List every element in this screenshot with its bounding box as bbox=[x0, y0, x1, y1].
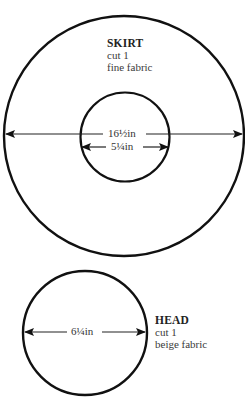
head-label: HEAD cut 1 beige fabric bbox=[155, 314, 207, 350]
skirt-outer-diameter-label: 16½in bbox=[106, 128, 138, 139]
skirt-cut: cut 1 bbox=[107, 49, 153, 61]
skirt-title: SKIRT bbox=[107, 37, 153, 49]
skirt-inner-diameter-label: 5¼in bbox=[109, 141, 135, 152]
head-diameter-label: 6¼in bbox=[69, 326, 95, 337]
skirt-label: SKIRT cut 1 fine fabric bbox=[107, 37, 153, 73]
head-fabric: beige fabric bbox=[155, 338, 207, 350]
skirt-fabric: fine fabric bbox=[107, 61, 153, 73]
head-title: HEAD bbox=[155, 314, 207, 326]
head-cut: cut 1 bbox=[155, 326, 207, 338]
